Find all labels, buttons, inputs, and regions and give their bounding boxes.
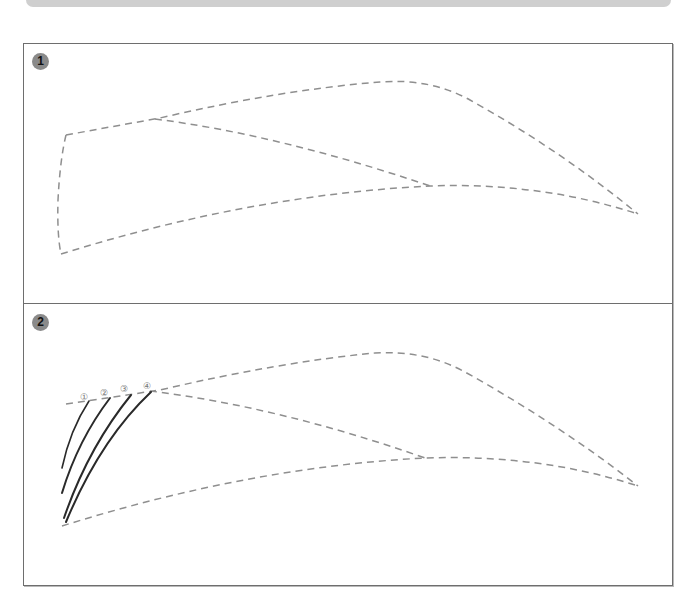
stroke-label-2: ② [100, 388, 108, 398]
hair-strokes [62, 392, 151, 522]
stroke-label-4: ④ [143, 381, 151, 391]
eyebrow-illustration: ① ② ③ ④ [0, 0, 698, 609]
stroke-label-3: ③ [120, 384, 128, 394]
eyebrow-outline-step-2 [62, 353, 638, 526]
stroke-order-labels: ① ② ③ ④ [80, 381, 151, 402]
stroke-label-1: ① [80, 392, 88, 402]
eyebrow-outline-step-1 [58, 81, 638, 254]
